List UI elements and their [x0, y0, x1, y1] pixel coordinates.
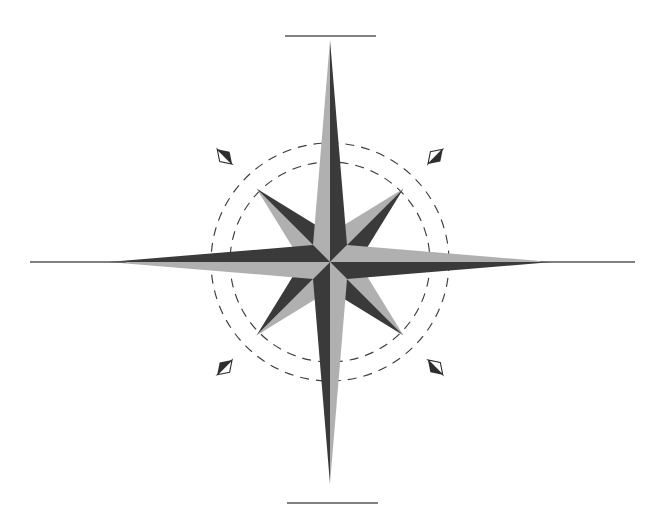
compass-figure: [0, 0, 661, 531]
compass-rose-graphic: [0, 0, 661, 531]
